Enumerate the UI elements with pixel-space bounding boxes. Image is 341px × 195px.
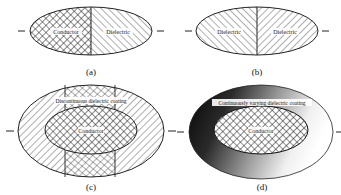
coating-label: Discontinuous dielectric coating (55, 98, 126, 104)
caption-a: (a) (86, 67, 96, 77)
caption-c: (c) (86, 182, 96, 192)
caption-d: (d) (257, 182, 268, 192)
caption-b: (b) (252, 67, 263, 77)
conductor-label: Conductor (78, 128, 103, 134)
panel-d: Continuously varying dielectric coating … (177, 85, 341, 192)
dielectric-right-label: Dielectric (273, 29, 297, 35)
figure-canvas: Conductor Dielectric (a) Dielectric Diel… (0, 0, 341, 195)
coating-label: Continuously varying dielectric coating (218, 100, 305, 106)
dielectric-left-label: Dielectric (217, 29, 241, 35)
panel-b: Dielectric Dielectric (b) (185, 7, 329, 77)
conductor-label: Conductor (53, 29, 78, 35)
panel-a: Conductor Dielectric (a) (18, 7, 164, 77)
panel-c: Discontinuous dielectric coating Conduct… (6, 85, 176, 192)
conductor-label: Conductor (248, 128, 273, 134)
dielectric-label: Dielectric (106, 29, 130, 35)
